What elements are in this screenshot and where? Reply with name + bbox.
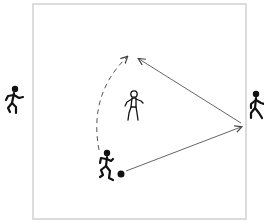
drill-diagram bbox=[0, 0, 264, 223]
diagram-canvas bbox=[0, 0, 264, 223]
center-player-icon bbox=[125, 91, 143, 120]
dribbler-player-icon bbox=[100, 150, 113, 180]
right-player-icon bbox=[251, 91, 264, 118]
pass-arrow-to-right bbox=[126, 127, 241, 171]
dashed-run-arrow bbox=[97, 57, 127, 150]
left-player-icon bbox=[6, 86, 23, 113]
ball-icon bbox=[118, 171, 125, 178]
return-pass-arrow bbox=[139, 59, 241, 123]
